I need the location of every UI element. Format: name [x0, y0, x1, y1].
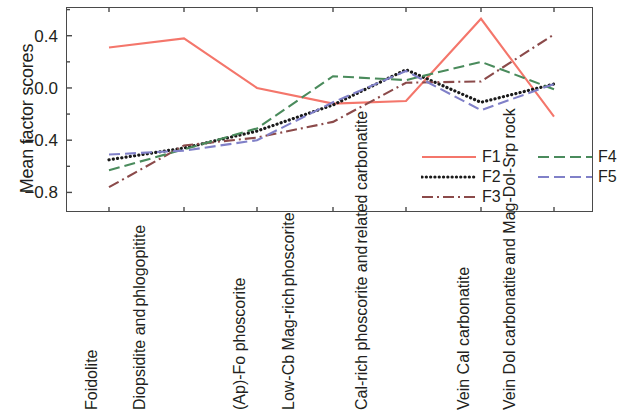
- x-axis-category-line: Vein Cal carbonatite: [455, 266, 473, 411]
- legend-item-f4[interactable]: F4: [537, 147, 621, 166]
- legend-swatch-f5: [537, 172, 593, 182]
- x-axis-category-line: (Ap)-Fo phoscorite: [231, 277, 249, 412]
- y-axis-tick-label: 0.4: [6, 27, 66, 44]
- y-axis-tick-label: −0.4: [6, 132, 66, 149]
- legend-label: F4: [598, 149, 617, 165]
- x-axis-category-line: Foidolite: [83, 349, 101, 411]
- y-axis-tick-label: −0.8: [6, 184, 66, 201]
- legend-label: F2: [482, 169, 501, 185]
- x-axis-category-5: Vein Cal carbonatite: [455, 266, 473, 411]
- x-axis-category-0: Foidolite: [83, 349, 101, 411]
- legend-swatch-f4: [537, 152, 593, 162]
- legend-item-f5[interactable]: F5: [537, 167, 621, 186]
- series-line-f5: [109, 71, 554, 155]
- x-axis-category-line: Cal-rich phoscorite and: [353, 244, 371, 411]
- legend-swatch-f2: [421, 172, 477, 182]
- x-axis-category-line: related carbonatite: [353, 110, 371, 245]
- legend-swatch-f1: [421, 152, 477, 162]
- x-axis-category-2: (Ap)-Fo phoscorite: [231, 277, 249, 412]
- x-axis-category-line: Vein Dol carbonatite: [501, 266, 519, 411]
- x-axis-category-6: Vein Dol carbonatiteand Mag-Dol-Srp rock: [501, 107, 537, 411]
- x-axis-category-4: Cal-rich phoscorite andrelated carbonati…: [353, 110, 389, 411]
- x-axis-category-1: Diopsidite andphlogopitite: [131, 224, 167, 411]
- legend-label: F3: [482, 189, 501, 205]
- x-axis-category-line: and Mag-Dol-Srp rock: [501, 107, 519, 266]
- legend-label: F5: [598, 169, 617, 185]
- legend-spacer: [537, 187, 621, 206]
- y-axis-tick-label: 0.0: [6, 79, 66, 96]
- x-axis-category-3: Low-Cb Mag-richphoscorite: [280, 211, 316, 411]
- legend-label: F1: [482, 149, 501, 165]
- x-axis-category-line: Diopsidite and: [131, 308, 149, 411]
- x-axis-category-line: phlogopitite: [131, 224, 149, 308]
- x-axis-category-line: phoscorite: [280, 211, 298, 287]
- legend-swatch-f3: [421, 192, 477, 202]
- x-axis-category-line: Low-Cb Mag-rich: [280, 287, 298, 411]
